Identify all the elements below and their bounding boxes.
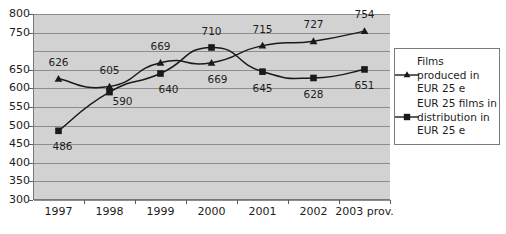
x-axis-tick-label: 2001 — [249, 205, 277, 218]
x-axis-tick-mark — [186, 200, 187, 204]
legend-label-line3: EUR 25 e — [417, 82, 501, 96]
x-axis-tick-mark — [339, 200, 340, 204]
legend-label-line1: Films — [417, 55, 501, 69]
x-axis-tick-label: 2002 — [300, 205, 328, 218]
x-axis-tick-label: 1999 — [147, 205, 175, 218]
x-axis-tick-label: 2003 prov. — [335, 205, 394, 218]
legend-label-line2: distribution in — [417, 111, 501, 125]
x-axis-tick-mark — [288, 200, 289, 204]
x-axis-tick-mark — [84, 200, 85, 204]
square-marker-icon — [395, 112, 419, 122]
x-axis-tick-mark — [237, 200, 238, 204]
legend-item-films-produced: Films produced in EUR 25 e — [395, 55, 501, 96]
chart-legend: Films produced in EUR 25 e EUR 25 films … — [394, 48, 500, 145]
x-axis-tick-mark — [390, 200, 391, 204]
x-axis-tick-mark — [135, 200, 136, 204]
x-axis-tick-label: 1998 — [96, 205, 124, 218]
triangle-marker-icon — [395, 70, 419, 80]
line-chart: 800750650600550500450400350300 199719981… — [0, 0, 506, 234]
legend-label-line1: EUR 25 films in — [417, 97, 501, 111]
legend-label-line2: produced in — [417, 69, 501, 83]
x-axis-tick-label: 1997 — [45, 205, 73, 218]
legend-label-line3: EUR 25 e — [417, 124, 501, 138]
x-axis-tick-label: 2000 — [198, 205, 226, 218]
legend-item-films-distribution: EUR 25 films in distribution in EUR 25 e — [395, 97, 501, 138]
